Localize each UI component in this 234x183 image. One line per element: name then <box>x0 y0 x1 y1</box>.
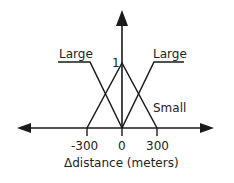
large-left-membership <box>58 62 122 128</box>
tick-label-minus-300: -300 <box>71 140 98 152</box>
large-right-membership <box>122 62 184 128</box>
y-axis-up-arrow-icon <box>116 10 128 26</box>
tick-label-300: 300 <box>146 140 169 152</box>
x-axis-left-arrow-icon <box>17 123 31 133</box>
x-axis-right-arrow-icon <box>200 123 214 133</box>
x-axis-title: Δdistance (meters) <box>64 157 179 169</box>
peak-value-label: 1 <box>112 57 120 69</box>
tick-label-0: 0 <box>118 140 126 152</box>
large-left-label: Large <box>59 48 93 60</box>
x-axis <box>17 123 214 136</box>
large-right-label: Large <box>153 48 187 60</box>
fuzzy-membership-diagram: Large Large Small 1 -300 0 300 Δdistance… <box>0 0 234 183</box>
small-label: Small <box>153 102 186 114</box>
